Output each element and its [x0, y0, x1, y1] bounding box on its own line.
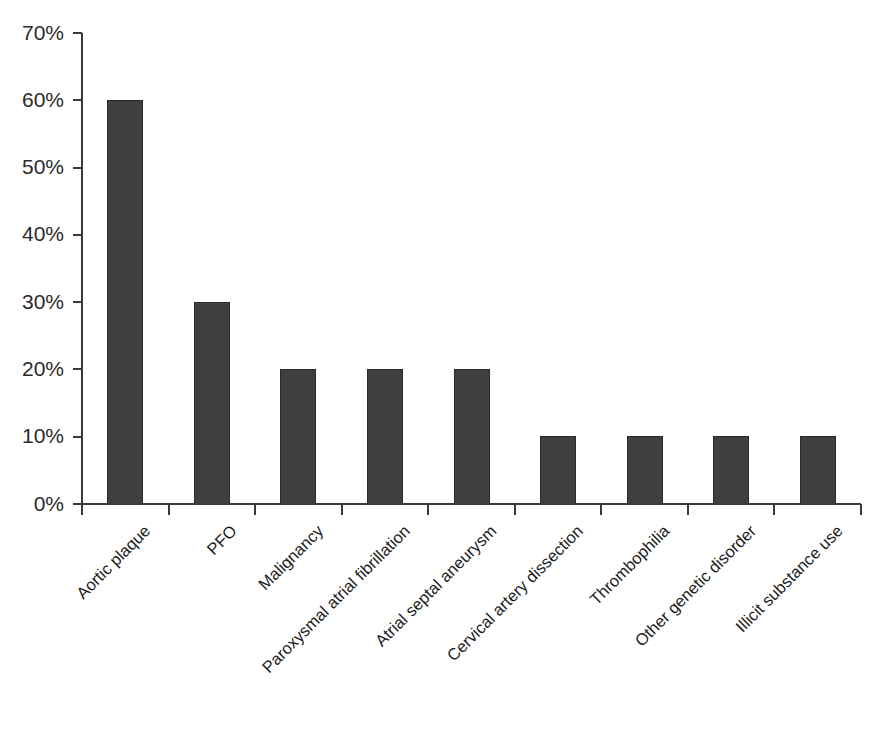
- y-axis-tick-marks: [73, 33, 82, 504]
- bar-series: [108, 100, 835, 504]
- x-axis-tick-marks: [82, 504, 861, 515]
- bar: [281, 369, 316, 504]
- bar: [541, 437, 576, 504]
- y-axis-tick-label: 0%: [34, 492, 64, 515]
- bar: [714, 437, 749, 504]
- y-axis-tick-label: 60%: [22, 88, 64, 111]
- bar: [108, 100, 143, 504]
- x-axis-tick-label: Paroxysmal atrial fibrillation: [258, 521, 413, 676]
- bar: [367, 369, 402, 504]
- bar: [627, 437, 662, 504]
- x-axis-tick-label: Malignancy: [255, 521, 327, 593]
- bar: [194, 302, 229, 504]
- bar-chart: 0%10%20%30%40%50%60%70% Aortic plaquePFO…: [0, 0, 888, 741]
- x-axis-tick-labels: Aortic plaquePFOMalignancyParoxysmal atr…: [73, 521, 846, 676]
- y-axis-tick-label: 70%: [22, 21, 64, 44]
- x-axis-tick-label: PFO: [203, 521, 240, 558]
- bar: [800, 437, 835, 504]
- bar: [454, 369, 489, 504]
- x-axis-tick-label: Aortic plaque: [73, 521, 154, 602]
- y-axis-tick-label: 40%: [22, 222, 64, 245]
- y-axis-tick-label: 20%: [22, 357, 64, 380]
- y-axis-tick-label: 50%: [22, 155, 64, 178]
- y-axis-tick-label: 30%: [22, 290, 64, 313]
- y-axis-tick-label: 10%: [22, 424, 64, 447]
- x-axis-tick-label: Thrombophilia: [586, 521, 673, 608]
- y-axis-tick-labels: 0%10%20%30%40%50%60%70%: [22, 21, 64, 515]
- chart-canvas: 0%10%20%30%40%50%60%70% Aortic plaquePFO…: [0, 0, 888, 741]
